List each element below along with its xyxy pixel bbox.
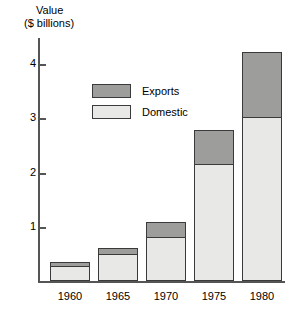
legend-label-domestic: Domestic <box>142 105 188 119</box>
y-axis-title-line-2: ($ billions) <box>24 17 74 30</box>
x-tick-label-1980: 1980 <box>242 290 282 302</box>
y-axis-title-line-1: Value <box>24 4 74 17</box>
bar-segment-domestic-1970 <box>146 237 186 281</box>
bar-segment-domestic-1975 <box>194 164 234 281</box>
bar-segment-domestic-1965 <box>98 254 138 281</box>
legend-label-exports: Exports <box>142 84 179 98</box>
bar-segment-exports-1980 <box>242 52 282 119</box>
bar-1960 <box>50 261 90 281</box>
y-tick-label-2: 2 <box>30 166 36 178</box>
bar-1965 <box>98 247 138 281</box>
bar-1975 <box>194 129 234 281</box>
bar-segment-exports-1975 <box>194 130 234 165</box>
y-tick-label-1: 1 <box>30 220 36 232</box>
bar-segment-domestic-1960 <box>50 266 90 281</box>
bar-segment-domestic-1980 <box>242 117 282 281</box>
x-tick-label-1975: 1975 <box>194 290 234 302</box>
bars-layer <box>38 38 285 282</box>
plot-area: 1 2 3 4 Exports Domestic 196019651970197… <box>38 38 285 282</box>
legend-swatch-domestic-icon <box>92 105 131 119</box>
legend-swatch-exports-icon <box>92 84 131 98</box>
x-tick-label-1965: 1965 <box>98 290 138 302</box>
x-tick-label-1970: 1970 <box>146 290 186 302</box>
y-axis-title: Value ($ billions) <box>24 4 74 30</box>
bar-1980 <box>242 50 282 281</box>
bar-segment-exports-1970 <box>146 222 186 237</box>
y-tick-label-4: 4 <box>30 57 36 69</box>
x-tick-label-1960: 1960 <box>50 290 90 302</box>
bar-segment-exports-1960 <box>50 262 90 266</box>
bar-segment-exports-1965 <box>98 248 138 255</box>
bar-1970 <box>146 221 186 281</box>
y-tick-label-3: 3 <box>30 111 36 123</box>
chart-figure: Value ($ billions) 1 2 3 4 Exports Domes… <box>0 0 293 309</box>
